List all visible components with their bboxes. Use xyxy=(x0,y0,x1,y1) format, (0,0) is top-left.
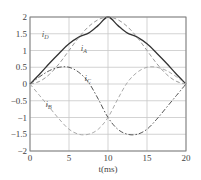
x-tick-label: 10 xyxy=(104,153,114,163)
y-tick-label: 1 xyxy=(23,46,28,56)
x-axis-label: t(ms) xyxy=(99,164,118,174)
y-tick-label: 1.5 xyxy=(16,29,28,39)
x-tick-label: 5 xyxy=(67,153,72,163)
y-tick-label: 0 xyxy=(23,79,28,89)
curve-labels: iDiAiCiB xyxy=(42,29,92,110)
y-tick-label: 2 xyxy=(23,12,28,22)
y-tick-label: −1.5 xyxy=(11,129,28,139)
x-tick-label: 0 xyxy=(28,153,33,163)
y-tick-label: 0.5 xyxy=(16,62,28,72)
grid xyxy=(30,17,186,151)
y-tick-label: −0.5 xyxy=(11,96,28,106)
curve-label-iC: iC xyxy=(85,73,93,84)
curve-label-iA: iA xyxy=(81,43,88,54)
current-waveform-chart: 05101520−2−1.5−1−0.500.511.52 iDiAiCiB t… xyxy=(0,0,201,180)
y-tick-label: −2 xyxy=(17,146,27,156)
x-tick-label: 20 xyxy=(182,153,192,163)
axes: 05101520−2−1.5−1−0.500.511.52 xyxy=(11,12,191,163)
y-tick-label: −1 xyxy=(17,113,27,123)
curve-label-iD: iD xyxy=(42,29,50,40)
x-tick-label: 15 xyxy=(143,153,153,163)
